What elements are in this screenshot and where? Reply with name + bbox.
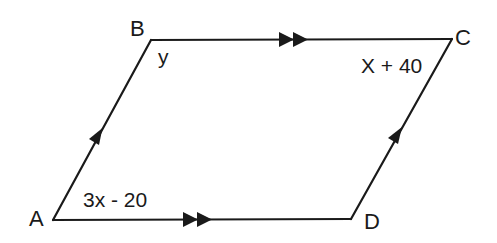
vertex-label-b: B [130, 18, 145, 40]
angle-label-a: 3x - 20 [83, 189, 147, 210]
angle-label-c: X + 40 [361, 55, 422, 76]
angle-label-b: y [158, 46, 169, 67]
vertex-label-a: A [29, 208, 44, 230]
double-arrow-icon-ad-2 [197, 212, 212, 227]
vertex-label-c: C [455, 27, 471, 49]
double-arrow-icon-bc-1 [279, 32, 294, 47]
parallelogram-diagram: A B C D y X + 40 3x - 20 [0, 0, 497, 243]
arrow-icon-ab [89, 128, 103, 145]
double-arrow-icon-ad-1 [183, 212, 198, 227]
arrow-icon-dc [388, 127, 402, 144]
double-arrow-icon-bc-2 [293, 32, 308, 47]
parallelogram-shape [0, 0, 497, 243]
vertex-label-d: D [364, 211, 380, 233]
